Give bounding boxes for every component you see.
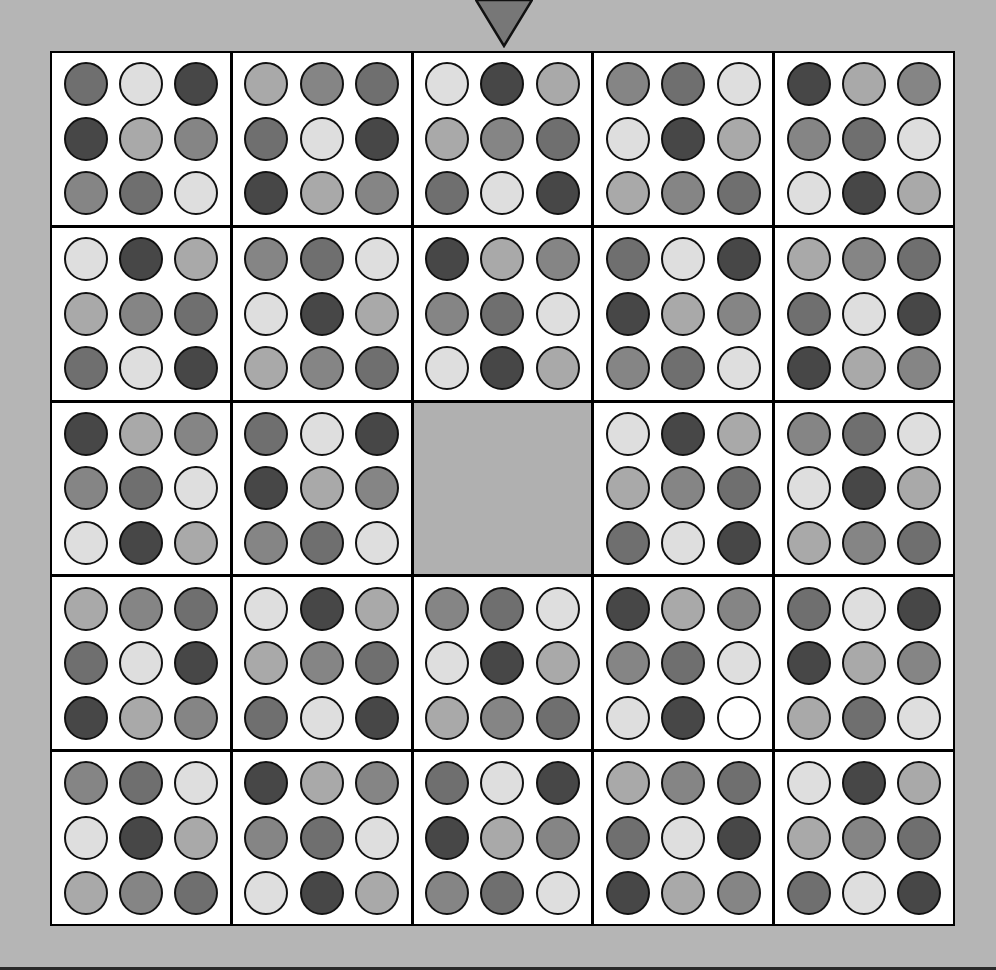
circle-dot-icon xyxy=(174,237,218,281)
dot-cell xyxy=(892,166,947,221)
dot-cell xyxy=(58,112,113,167)
circle-dot-icon xyxy=(425,761,469,805)
dot-cell xyxy=(349,865,404,920)
circle-dot-icon xyxy=(661,587,705,631)
tile-r1-c4[interactable] xyxy=(775,228,953,400)
tile-r3-c2[interactable] xyxy=(414,577,592,749)
circle-dot-icon xyxy=(606,171,650,215)
circle-dot-icon xyxy=(119,871,163,915)
dot-cell xyxy=(58,166,113,221)
dot-cell xyxy=(781,341,836,396)
circle-dot-icon xyxy=(717,521,761,565)
circle-dot-icon xyxy=(661,292,705,336)
circle-dot-icon xyxy=(787,871,831,915)
circle-dot-icon xyxy=(480,62,524,106)
dot-cell xyxy=(58,581,113,636)
circle-dot-icon xyxy=(787,171,831,215)
dot-cell xyxy=(656,461,711,516)
circle-dot-icon xyxy=(64,696,108,740)
circle-dot-icon xyxy=(717,466,761,510)
circle-dot-icon xyxy=(244,761,288,805)
tile-r2-c4[interactable] xyxy=(775,403,953,575)
tile-r4-c4[interactable] xyxy=(775,752,953,924)
dot-cell xyxy=(169,232,224,287)
dot-cell xyxy=(892,341,947,396)
circle-dot-icon xyxy=(300,871,344,915)
triangle-down-icon xyxy=(475,0,533,48)
circle-dot-icon xyxy=(119,696,163,740)
dot-cell xyxy=(294,341,349,396)
tile-r0-c3[interactable] xyxy=(594,53,772,225)
circle-dot-icon xyxy=(244,816,288,860)
dot-cell xyxy=(656,636,711,691)
circle-dot-icon xyxy=(897,292,941,336)
circle-dot-icon xyxy=(300,761,344,805)
tile-r1-c3[interactable] xyxy=(594,228,772,400)
circle-dot-icon xyxy=(64,171,108,215)
circle-dot-icon xyxy=(480,761,524,805)
tile-r4-c2[interactable] xyxy=(414,752,592,924)
circle-dot-icon xyxy=(606,117,650,161)
dot-cell xyxy=(475,581,530,636)
empty-slot[interactable] xyxy=(414,403,592,575)
circle-dot-icon xyxy=(480,587,524,631)
tile-r4-c3[interactable] xyxy=(594,752,772,924)
circle-dot-icon xyxy=(355,171,399,215)
dot-cell xyxy=(58,286,113,341)
dot-cell xyxy=(239,112,294,167)
dot-cell xyxy=(113,112,168,167)
dot-cell xyxy=(711,57,766,112)
tile-r3-c3[interactable] xyxy=(594,577,772,749)
dot-cell xyxy=(294,756,349,811)
circle-dot-icon xyxy=(787,346,831,390)
circle-dot-icon xyxy=(425,117,469,161)
tile-r2-c0[interactable] xyxy=(52,403,230,575)
dot-cell xyxy=(711,232,766,287)
tile-r0-c4[interactable] xyxy=(775,53,953,225)
circle-dot-icon xyxy=(536,816,580,860)
tile-r4-c1[interactable] xyxy=(233,752,411,924)
dot-cell xyxy=(294,57,349,112)
circle-dot-icon xyxy=(842,816,886,860)
circle-dot-icon xyxy=(64,292,108,336)
circle-dot-icon xyxy=(119,761,163,805)
circle-dot-icon xyxy=(425,641,469,685)
tile-r0-c0[interactable] xyxy=(52,53,230,225)
circle-dot-icon xyxy=(300,816,344,860)
dot-cell xyxy=(530,286,585,341)
tile-r0-c2[interactable] xyxy=(414,53,592,225)
dot-cell xyxy=(656,581,711,636)
dot-cell xyxy=(349,756,404,811)
tile-r3-c1[interactable] xyxy=(233,577,411,749)
dot-cell xyxy=(113,341,168,396)
tile-r3-c4[interactable] xyxy=(775,577,953,749)
dot-cell xyxy=(781,112,836,167)
tile-r1-c2[interactable] xyxy=(414,228,592,400)
circle-dot-icon xyxy=(606,871,650,915)
circle-dot-icon xyxy=(244,412,288,456)
dot-cell xyxy=(781,636,836,691)
tile-r1-c0[interactable] xyxy=(52,228,230,400)
tile-r0-c1[interactable] xyxy=(233,53,411,225)
tile-r3-c0[interactable] xyxy=(52,577,230,749)
circle-dot-icon xyxy=(174,587,218,631)
dot-cell xyxy=(656,232,711,287)
dot-cell xyxy=(530,691,585,746)
dot-cell xyxy=(420,57,475,112)
circle-dot-icon xyxy=(897,412,941,456)
circle-dot-icon xyxy=(717,237,761,281)
circle-dot-icon xyxy=(244,466,288,510)
tile-r4-c0[interactable] xyxy=(52,752,230,924)
dot-cell xyxy=(836,166,891,221)
circle-dot-icon xyxy=(244,117,288,161)
circle-dot-icon xyxy=(536,117,580,161)
tile-r2-c3[interactable] xyxy=(594,403,772,575)
circle-dot-icon xyxy=(64,466,108,510)
dot-cell xyxy=(892,865,947,920)
tile-r1-c1[interactable] xyxy=(233,228,411,400)
dot-cell xyxy=(656,691,711,746)
dot-cell xyxy=(294,865,349,920)
circle-dot-icon xyxy=(842,466,886,510)
dot-cell xyxy=(836,581,891,636)
tile-r2-c1[interactable] xyxy=(233,403,411,575)
